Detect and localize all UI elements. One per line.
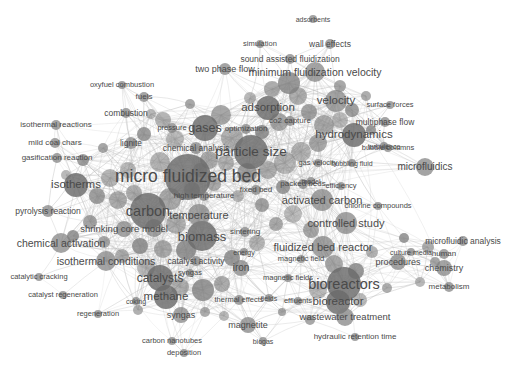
network-node[interactable] — [335, 212, 357, 234]
network-node[interactable] — [96, 251, 116, 271]
network-node[interactable] — [51, 233, 71, 253]
network-node[interactable] — [64, 173, 88, 197]
network-node[interactable] — [444, 282, 454, 292]
network-node[interactable] — [154, 285, 178, 309]
network-node[interactable] — [314, 159, 322, 167]
network-node[interactable] — [42, 205, 54, 217]
network-node[interactable] — [284, 274, 292, 282]
network-node[interactable] — [297, 255, 305, 263]
network-node[interactable] — [51, 120, 61, 130]
network-node[interactable] — [305, 62, 325, 82]
network-node[interactable] — [132, 297, 140, 305]
network-node[interactable] — [192, 115, 218, 141]
network-node[interactable] — [407, 248, 415, 256]
network-node[interactable] — [121, 108, 131, 118]
network-node[interactable] — [336, 308, 354, 326]
network-node[interactable] — [325, 90, 347, 112]
network-node[interactable] — [233, 260, 249, 276]
network-map-canvas[interactable]: micro fluidized bedparticle sizecarbonbi… — [0, 0, 518, 371]
network-node[interactable] — [188, 204, 210, 226]
network-node[interactable] — [307, 177, 315, 185]
network-edges-and-nodes — [0, 0, 518, 371]
network-node[interactable] — [167, 123, 177, 133]
network-node[interactable] — [168, 337, 176, 345]
network-node[interactable] — [240, 317, 256, 333]
network-node[interactable] — [116, 221, 132, 237]
network-node[interactable] — [219, 63, 231, 75]
network-node[interactable] — [458, 236, 468, 246]
network-node[interactable] — [259, 337, 267, 345]
network-node[interactable] — [251, 185, 261, 195]
network-node[interactable] — [180, 349, 188, 357]
network-node[interactable] — [380, 142, 388, 150]
network-node[interactable] — [118, 81, 126, 89]
network-node[interactable] — [285, 54, 295, 64]
network-node[interactable] — [380, 117, 390, 127]
network-node[interactable] — [325, 39, 335, 49]
network-node[interactable] — [241, 124, 251, 134]
network-node[interactable] — [234, 295, 244, 305]
network-node[interactable] — [348, 159, 356, 167]
network-node[interactable] — [130, 193, 166, 229]
network-node[interactable] — [390, 254, 406, 270]
network-node[interactable] — [416, 158, 434, 176]
network-node[interactable] — [436, 260, 452, 276]
network-node[interactable] — [52, 153, 62, 163]
network-node[interactable] — [125, 137, 137, 149]
network-node[interactable] — [298, 179, 308, 189]
network-node[interactable] — [190, 142, 202, 154]
network-node[interactable] — [285, 116, 295, 126]
network-node[interactable] — [186, 269, 194, 277]
network-node[interactable] — [35, 273, 43, 281]
network-node[interactable] — [386, 101, 394, 109]
network-node[interactable] — [240, 248, 248, 256]
network-node[interactable] — [139, 92, 149, 102]
network-node[interactable] — [374, 202, 382, 210]
network-node[interactable] — [50, 138, 60, 148]
network-node[interactable] — [265, 294, 273, 302]
network-node[interactable] — [94, 310, 102, 318]
network-node[interactable] — [59, 291, 67, 299]
network-node[interactable] — [173, 307, 189, 323]
network-node[interactable] — [191, 256, 201, 266]
network-node[interactable] — [312, 236, 334, 258]
network-node[interactable] — [351, 333, 359, 341]
network-node[interactable] — [234, 135, 268, 169]
network-node[interactable] — [294, 297, 302, 305]
network-node[interactable] — [337, 182, 345, 190]
network-node[interactable] — [311, 189, 333, 211]
network-node[interactable] — [256, 96, 280, 120]
network-node[interactable] — [199, 191, 209, 201]
network-node[interactable] — [256, 40, 264, 48]
network-node[interactable] — [342, 123, 366, 147]
network-node[interactable] — [439, 249, 449, 259]
network-node[interactable] — [309, 15, 317, 23]
network-node[interactable] — [240, 227, 250, 237]
